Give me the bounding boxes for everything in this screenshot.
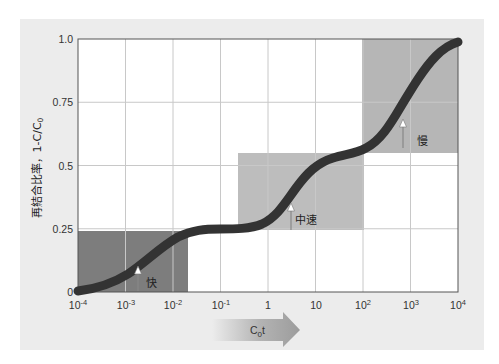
svg-text:0.25: 0.25 <box>53 223 74 235</box>
svg-text:103: 103 <box>403 298 419 311</box>
label-medium: 中速 <box>295 214 317 227</box>
chart: 快 中速 慢 0 0.25 0.5 0.75 1.0 10-4 10-3 10-… <box>0 0 499 364</box>
svg-text:10: 10 <box>310 299 322 311</box>
label-fast: 快 <box>146 277 157 290</box>
svg-text:10-2: 10-2 <box>164 298 182 311</box>
svg-text:1.0: 1.0 <box>58 33 73 45</box>
svg-text:102: 102 <box>355 298 371 311</box>
svg-text:0.5: 0.5 <box>58 160 73 172</box>
svg-text:10-1: 10-1 <box>212 298 230 311</box>
svg-text:10-4: 10-4 <box>69 298 87 311</box>
x-axis-ticks: 10-4 10-3 10-2 10-1 1 10 102 103 104 <box>69 298 466 311</box>
svg-text:104: 104 <box>450 298 466 311</box>
svg-text:10-3: 10-3 <box>117 298 135 311</box>
svg-text:0: 0 <box>67 286 73 298</box>
svg-text:1: 1 <box>265 299 271 311</box>
y-axis-ticks: 0 0.25 0.5 0.75 1.0 <box>53 33 74 298</box>
label-slow: 慢 <box>417 135 428 148</box>
svg-text:0.75: 0.75 <box>53 96 74 108</box>
y-axis-label: 再結合比率，1-C/C0 <box>30 117 45 218</box>
